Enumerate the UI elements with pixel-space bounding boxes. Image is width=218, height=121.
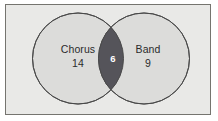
venn-diagram-figure: Chorus 14 Band 9 6	[0, 0, 218, 121]
venn-label-right-set-name: Band	[108, 44, 188, 55]
venn-label-intersection-count: 6	[98, 54, 128, 64]
venn-label-left-set-name: Chorus	[38, 44, 118, 55]
